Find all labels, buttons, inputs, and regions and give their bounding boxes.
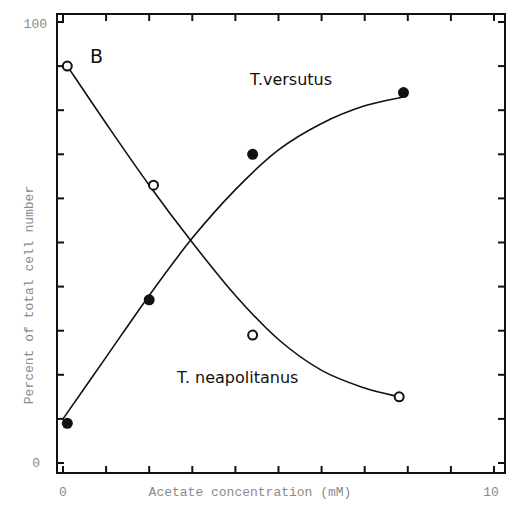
fit-curve-1 bbox=[67, 66, 399, 397]
open-data-point bbox=[395, 392, 404, 401]
filled-data-point bbox=[144, 294, 155, 305]
x-tick-label-min: 0 bbox=[59, 485, 67, 500]
filled-data-point bbox=[62, 418, 73, 429]
chart: 100 0 0 10 Acetate concentration (mM) Pe… bbox=[0, 0, 521, 517]
x-axis-label: Acetate concentration (mM) bbox=[149, 485, 352, 500]
series-label-versutus: T.versutus bbox=[249, 70, 332, 89]
panel-label: B bbox=[90, 45, 103, 67]
filled-data-point bbox=[247, 149, 258, 160]
series-label-neapolitanus: T. neapolitanus bbox=[176, 368, 298, 387]
y-tick-label-min: 0 bbox=[32, 456, 40, 471]
open-data-point bbox=[63, 62, 72, 71]
y-axis-label: Percent of total cell number bbox=[22, 186, 37, 404]
fit-curves bbox=[63, 66, 403, 419]
x-tick-label-max: 10 bbox=[483, 485, 499, 500]
filled-data-point bbox=[398, 87, 409, 98]
open-data-point bbox=[248, 331, 257, 340]
y-tick-label-max: 100 bbox=[24, 17, 47, 32]
open-data-point bbox=[149, 181, 158, 190]
